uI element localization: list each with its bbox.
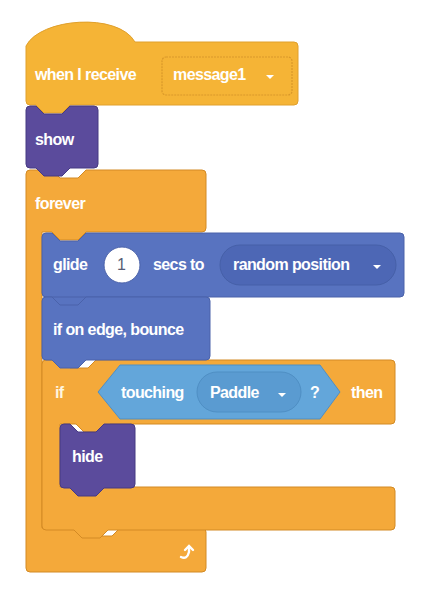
hat-label: when I receive bbox=[35, 65, 136, 85]
glide-label: glide bbox=[53, 255, 87, 275]
glide-target-dropdown[interactable]: random position bbox=[233, 255, 349, 275]
hide-label: hide bbox=[72, 447, 103, 467]
bounce-label: if on edge, bounce bbox=[53, 320, 184, 340]
message-dropdown[interactable]: message1 bbox=[173, 65, 246, 85]
forever-label: forever bbox=[35, 194, 85, 214]
secs-to-label: secs to bbox=[153, 255, 204, 275]
touching-label: touching bbox=[121, 383, 184, 403]
paddle-dropdown[interactable]: Paddle bbox=[210, 383, 259, 403]
then-label: then bbox=[351, 383, 382, 403]
scratch-script-canvas bbox=[0, 0, 427, 593]
question-mark: ? bbox=[310, 383, 319, 403]
if-label: if bbox=[55, 383, 64, 403]
show-label: show bbox=[35, 130, 74, 150]
secs-input[interactable]: 1 bbox=[117, 255, 125, 275]
